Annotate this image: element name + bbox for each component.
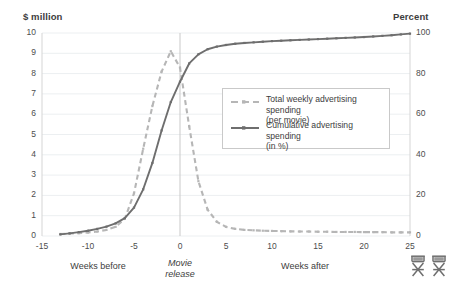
data-point-marker [105,229,107,231]
data-point-marker [243,42,245,44]
data-point-marker [335,231,337,233]
legend-label-weekly-line1: Total weekly advertising spending [266,94,357,115]
data-point-marker [372,35,374,37]
data-point-marker [345,37,347,39]
movie-release-label-line1: Movie [150,258,210,268]
data-point-marker [179,81,181,83]
data-point-marker [345,231,347,233]
data-point-marker [188,125,190,127]
data-point-marker [308,230,310,232]
data-point-marker [151,105,153,107]
data-point-marker [271,40,273,42]
data-point-marker [289,230,291,232]
data-point-marker [78,231,80,233]
data-point-marker [170,50,172,52]
data-point-marker [253,41,255,43]
data-point-marker [225,44,227,46]
data-point-marker [207,48,209,50]
data-point-marker [96,228,98,230]
data-point-marker [299,39,301,41]
data-point-marker [59,233,61,235]
data-point-marker [326,38,328,40]
data-point-marker [133,192,135,194]
data-point-marker [124,217,126,219]
data-point-marker [161,70,163,72]
data-point-marker [253,229,255,231]
data-point-marker [299,230,301,232]
data-point-marker [363,36,365,38]
data-point-marker [381,231,383,233]
data-point-marker [271,230,273,232]
data-point-marker [69,232,71,234]
data-point-marker [179,66,181,68]
data-point-marker [96,230,98,232]
data-point-marker [391,34,393,36]
data-point-marker [391,231,393,233]
data-point-marker [400,231,402,233]
data-point-marker [216,46,218,48]
data-point-marker [280,40,282,42]
data-point-marker [372,231,374,233]
data-point-marker [317,231,319,233]
data-point-marker [381,35,383,37]
legend-label-cumulative-line2: (in %) [266,141,288,151]
legend-label-cumulative-line1: Cumulative advertising spending [266,120,353,141]
movie-release-label-line2: release [150,269,210,279]
data-point-marker [326,231,328,233]
data-point-marker [188,62,190,64]
data-point-marker [280,230,282,232]
data-point-marker [142,148,144,150]
data-point-marker [354,36,356,38]
legend: Total weekly advertising spending (per m… [222,88,390,149]
data-point-marker [262,41,264,43]
weeks-after-label: Weeks after [250,261,360,271]
legend-swatch-dashed [230,98,260,106]
data-point-marker [216,221,218,223]
data-point-marker [234,43,236,45]
data-point-marker [243,229,245,231]
data-point-marker [197,53,199,55]
data-point-marker [308,38,310,40]
data-point-marker [170,101,172,103]
data-point-marker [197,180,199,182]
data-point-marker [400,33,402,35]
data-point-marker [161,129,163,131]
weeks-before-label: Weeks before [43,261,153,271]
data-point-marker [115,226,117,228]
data-point-marker [87,230,89,232]
legend-swatch-solid [230,124,260,132]
legend-label-cumulative: Cumulative advertising spending (in %) [266,120,390,152]
data-point-marker [409,33,411,35]
director-chair-icon [408,252,428,278]
data-point-marker [317,38,319,40]
data-point-marker [234,228,236,230]
data-point-marker [115,222,117,224]
data-point-marker [335,37,337,39]
data-point-marker [225,226,227,228]
data-point-marker [133,206,135,208]
data-point-marker [207,209,209,211]
data-point-marker [142,188,144,190]
data-point-marker [289,39,291,41]
director-chair-icon [429,252,449,278]
data-point-marker [151,162,153,164]
data-point-marker [354,231,356,233]
data-point-marker [105,226,107,228]
data-point-marker [262,230,264,232]
advertising-spending-chart: $ million Percent 1098765432101008060402… [0,0,449,292]
data-point-marker [363,231,365,233]
data-point-marker [409,231,411,233]
